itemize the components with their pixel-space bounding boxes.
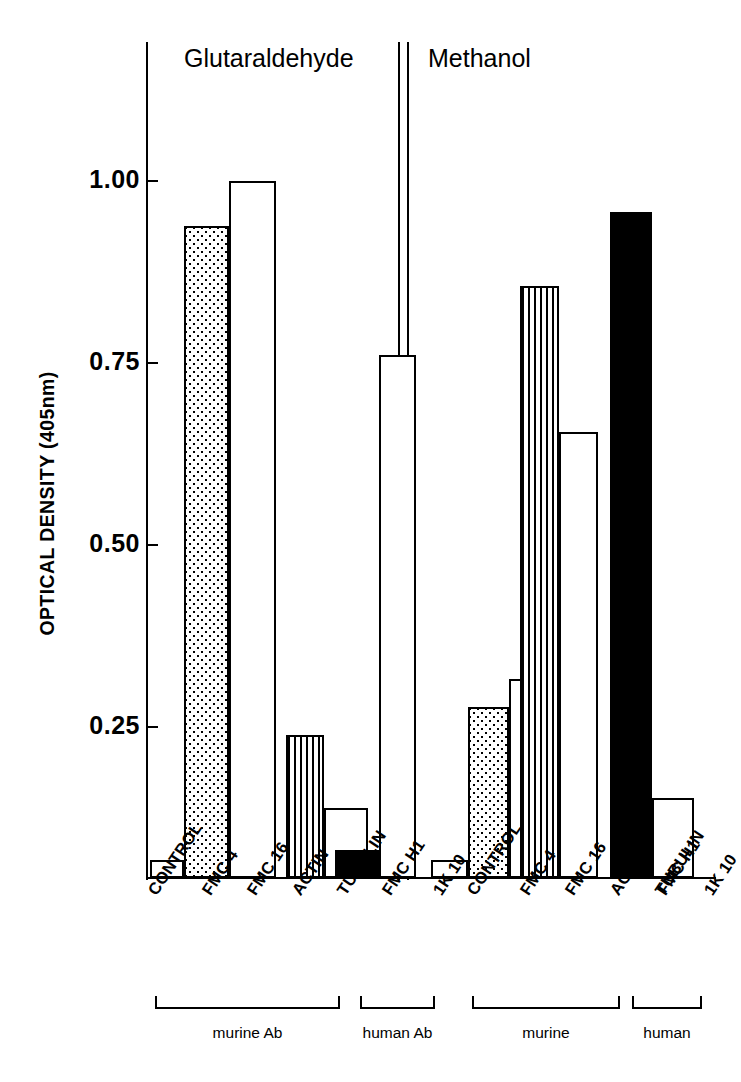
panel-title-methanol: Methanol	[428, 44, 531, 73]
y-tick-0-75	[148, 362, 158, 364]
bar-g3-tubulin	[559, 432, 598, 878]
y-axis-title: OPTICAL DENSITY (405nm)	[36, 294, 59, 714]
bar-g1-fmc4	[184, 226, 229, 878]
y-tick-label-0-25: 0.25	[89, 713, 140, 738]
bar-g4-fmch1	[610, 212, 652, 878]
bracket-label-human-ab: human Ab	[360, 1024, 435, 1042]
y-axis-line	[146, 42, 148, 880]
y-tick-0-50	[148, 544, 158, 546]
y-tick-label-0-75: 0.75	[89, 349, 140, 374]
bar-g3-actin	[520, 286, 559, 878]
y-tick-1-00	[148, 180, 158, 182]
y-tick-0-25	[148, 726, 158, 728]
bar-g1-fmc16	[229, 181, 276, 878]
bracket-label-human: human	[632, 1024, 702, 1042]
bar-g2-1k10	[379, 355, 416, 878]
panel-title-glutaraldehyde: Glutaraldehyde	[184, 44, 354, 73]
bracket-human	[632, 996, 702, 1009]
y-tick-label-1-00: 1.00	[89, 167, 140, 192]
bracket-label-murine: murine	[472, 1024, 620, 1042]
bracket-label-murine-ab: murine Ab	[155, 1024, 340, 1042]
bracket-murine	[472, 996, 620, 1009]
bracket-murine-ab	[155, 996, 340, 1009]
bracket-human-ab	[360, 996, 435, 1009]
y-tick-label-0-50: 0.50	[89, 531, 140, 556]
x-label-g4-1k10: 1K 10	[700, 851, 741, 899]
